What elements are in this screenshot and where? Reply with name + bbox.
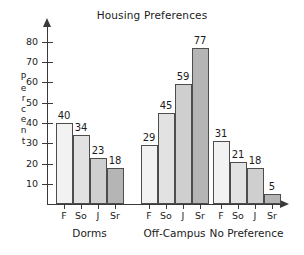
x-axis-category-label: Sr	[102, 211, 129, 221]
y-axis-tick-label-text: 50	[16, 98, 38, 108]
y-axis-tick	[42, 42, 53, 43]
bar	[141, 145, 158, 204]
x-axis-tick	[149, 204, 150, 209]
housing-preferences-chart: Housing Preferences Percent 102030405060…	[0, 0, 304, 255]
bar-value-label: 34	[67, 123, 96, 133]
x-axis-tick	[81, 204, 82, 209]
plot-area: Percent 1020304050607080 403423182945597…	[0, 0, 304, 255]
bar	[175, 84, 192, 204]
x-axis-tick	[221, 204, 222, 209]
bar	[264, 194, 281, 204]
x-axis-tick	[183, 204, 184, 209]
y-axis-tick-label: 10	[14, 179, 38, 189]
x-axis-arrow-icon	[280, 200, 289, 208]
y-axis-tick-label-text: 70	[16, 57, 38, 67]
bar-value-label: 40	[50, 111, 79, 121]
bar	[56, 123, 73, 204]
bar	[107, 168, 124, 205]
bar	[230, 162, 247, 205]
y-axis-tick-label-text: 20	[16, 159, 38, 169]
y-axis-tick-label-text: 60	[16, 77, 38, 87]
y-axis-tick-label: 30	[14, 138, 38, 148]
x-axis-group-label: No Preference	[191, 228, 303, 239]
y-axis-tick-label: 60	[14, 77, 38, 87]
x-axis-tick	[64, 204, 65, 209]
bar	[158, 113, 175, 205]
bar-value-label: 77	[186, 36, 215, 46]
y-axis-tick	[42, 62, 53, 63]
bar	[192, 48, 209, 205]
y-axis-tick	[42, 103, 53, 104]
y-axis-tick	[42, 123, 53, 124]
y-axis-tick-label: 40	[14, 118, 38, 128]
y-axis-tick	[42, 164, 53, 165]
y-axis-tick	[42, 143, 53, 144]
bar-value-label: 5	[258, 182, 287, 192]
y-axis-tick-label-text: 80	[16, 37, 38, 47]
x-axis-tick	[238, 204, 239, 209]
x-axis-tick	[200, 204, 201, 209]
y-axis-tick-label-text: 40	[16, 118, 38, 128]
x-axis-tick	[166, 204, 167, 209]
y-axis-tick-label-text: 10	[16, 179, 38, 189]
y-axis-tick-label: 50	[14, 98, 38, 108]
x-axis-tick	[255, 204, 256, 209]
x-axis-category-label: Sr	[259, 211, 286, 221]
bar-value-label: 18	[101, 156, 130, 166]
y-axis-arrow-icon	[43, 18, 51, 27]
y-axis-tick-label: 20	[14, 159, 38, 169]
x-axis-tick	[272, 204, 273, 209]
y-axis-line	[47, 26, 48, 205]
y-axis-tick-label: 70	[14, 57, 38, 67]
x-axis-tick	[115, 204, 116, 209]
y-axis-tick	[42, 184, 53, 185]
bar-value-label: 31	[207, 129, 236, 139]
y-axis-tick-label: 80	[14, 37, 38, 47]
y-axis-tick	[42, 82, 53, 83]
y-axis-tick-label-text: 30	[16, 138, 38, 148]
x-axis-tick	[98, 204, 99, 209]
bar-value-label: 18	[241, 156, 270, 166]
